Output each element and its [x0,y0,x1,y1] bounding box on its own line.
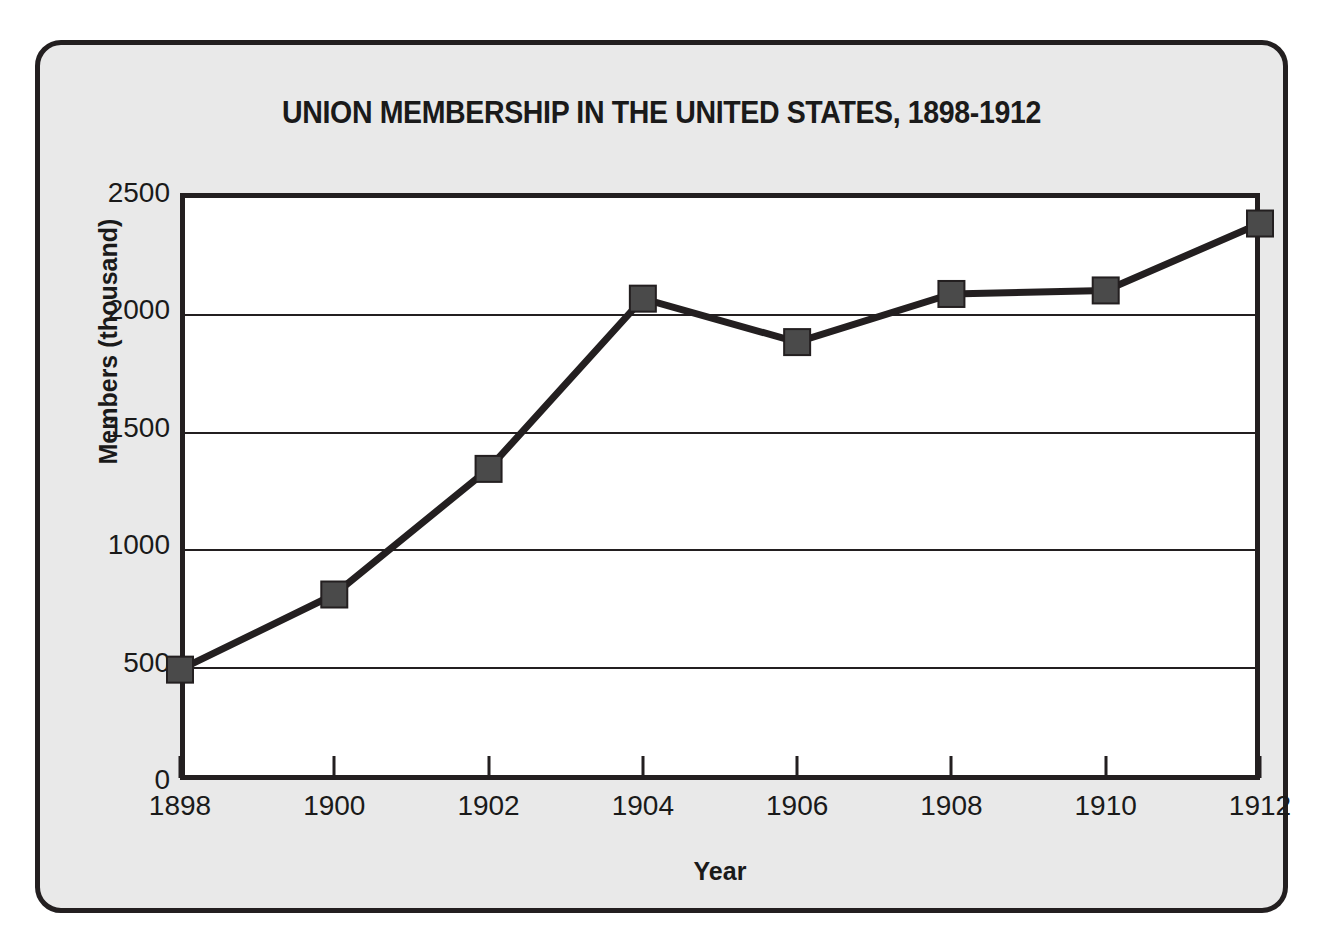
x-tick-label: 1906 [727,790,867,822]
data-point-marker [167,657,193,683]
x-axis-tick-labels: 18981900190219041906190819101912 [180,790,1260,834]
line-series-union-members [180,193,1260,780]
data-point-marker [938,281,964,307]
chart-title: UNION MEMBERSHIP IN THE UNITED STATES, 1… [90,95,1234,131]
plot-wrapper [180,193,1260,780]
y-tick-label: 1000 [70,529,170,561]
y-axis-tick-labels: 05001000150020002500 [58,193,170,780]
y-tick-label: 2500 [70,177,170,209]
data-point-marker [321,582,347,608]
x-tick-label: 1904 [573,790,713,822]
x-tick-label: 1912 [1190,790,1323,822]
data-point-marker [1247,211,1273,237]
chart-screenshot: UNION MEMBERSHIP IN THE UNITED STATES, 1… [0,0,1323,941]
x-tick-label: 1902 [419,790,559,822]
y-tick-label: 500 [70,647,170,679]
data-point-marker [1093,277,1119,303]
x-tick-label: 1908 [881,790,1021,822]
data-point-marker [630,286,656,312]
x-tick-label: 1898 [110,790,250,822]
y-tick-label: 1500 [70,412,170,444]
x-axis-title: Year [180,857,1260,886]
y-tick-label: 2000 [70,294,170,326]
data-point-marker [476,456,502,482]
data-point-marker [784,329,810,355]
x-tick-label: 1900 [264,790,404,822]
x-tick-label: 1910 [1036,790,1176,822]
chart-frame: UNION MEMBERSHIP IN THE UNITED STATES, 1… [35,40,1288,913]
